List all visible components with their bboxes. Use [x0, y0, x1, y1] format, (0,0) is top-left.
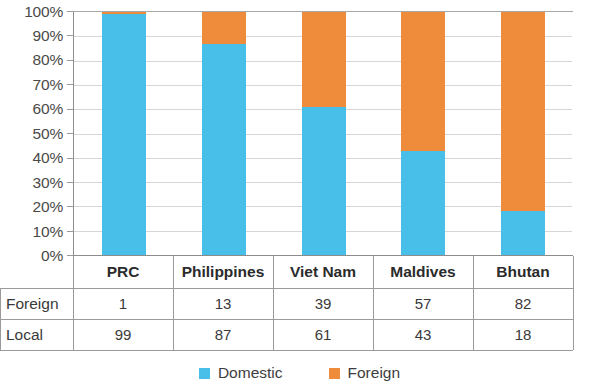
y-tick-label: 90% [5, 28, 63, 44]
table-rule [173, 256, 174, 350]
table-header-row: PRCPhilippinesViet NamMaldivesBhutan [0, 256, 573, 288]
bar-segment-domestic[interactable] [102, 14, 146, 255]
table-rule [473, 256, 474, 350]
table-cell: 82 [473, 288, 573, 319]
table-cell: 43 [373, 319, 473, 350]
table-column-header: Viet Nam [273, 256, 373, 288]
table-cell: 1 [73, 288, 173, 319]
y-tick-label: 40% [5, 150, 63, 166]
bar-philippines[interactable] [202, 12, 246, 255]
legend-item-foreign[interactable]: Foreign [329, 365, 401, 381]
table-row: Local9987614318 [0, 319, 573, 350]
legend-square-icon [199, 368, 210, 379]
bar-segment-domestic[interactable] [401, 151, 445, 255]
bar-segment-domestic[interactable] [302, 107, 346, 255]
bar-viet-nam[interactable] [302, 12, 346, 255]
table-cell: 39 [273, 288, 373, 319]
bar-segment-foreign[interactable] [401, 12, 445, 151]
table-rule [0, 288, 1, 350]
bar-segment-foreign[interactable] [302, 12, 346, 107]
table-rule [0, 350, 573, 351]
bar-segment-domestic[interactable] [202, 44, 246, 255]
legend-square-icon [329, 368, 340, 379]
table-cell: 57 [373, 288, 473, 319]
plot-area [73, 12, 572, 255]
table-cell: 13 [173, 288, 273, 319]
foreign-row-label: Foreign [0, 288, 73, 319]
table-column-header: Bhutan [473, 256, 573, 288]
table-row: Foreign113395782 [0, 288, 573, 319]
stacked-bar-chart: 100% 90% 80% 70% 60% 50% 40% 30% 20% 10%… [0, 0, 599, 391]
y-tick-label: 80% [5, 52, 63, 68]
y-axis: 100% 90% 80% 70% 60% 50% 40% 30% 20% 10%… [0, 0, 73, 266]
table-column-header: Maldives [373, 256, 473, 288]
bar-bhutan[interactable] [501, 12, 545, 255]
data-table: PRCPhilippinesViet NamMaldivesBhutan For… [0, 256, 573, 351]
legend-label: Domestic [218, 365, 283, 381]
bar-segment-foreign[interactable] [202, 12, 246, 44]
bar-segment-foreign[interactable] [501, 12, 545, 211]
bar-segment-foreign[interactable] [102, 12, 146, 14]
bars-layer [74, 12, 572, 255]
bar-prc[interactable] [102, 12, 146, 255]
legend-item-domestic[interactable]: Domestic [199, 365, 283, 381]
table-column-header: PRC [73, 256, 173, 288]
table-column-header: Philippines [173, 256, 273, 288]
bar-segment-domestic[interactable] [501, 211, 545, 255]
table-rule [573, 256, 574, 350]
y-tick-label: 50% [5, 126, 63, 142]
y-tick-label: 70% [5, 77, 63, 93]
table-cell: 61 [273, 319, 373, 350]
y-tick-label: 100% [5, 4, 63, 20]
bar-maldives[interactable] [401, 12, 445, 255]
local-row-label: Local [0, 319, 73, 350]
chart-legend: DomesticForeign [0, 358, 599, 388]
table-rule [0, 319, 573, 320]
y-tick-label: 10% [5, 224, 63, 240]
table-cell: 99 [73, 319, 173, 350]
y-tick-label: 20% [5, 199, 63, 215]
table-cell: 87 [173, 319, 273, 350]
table-rule [273, 256, 274, 350]
legend-label: Foreign [348, 365, 401, 381]
y-tick-label: 30% [5, 175, 63, 191]
table-rule [73, 256, 74, 350]
y-tick-label: 60% [5, 101, 63, 117]
table-cell: 18 [473, 319, 573, 350]
table-rule [0, 288, 573, 289]
table-rule [373, 256, 374, 350]
